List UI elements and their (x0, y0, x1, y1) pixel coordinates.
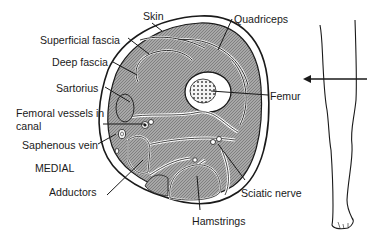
label-deep-fascia: Deep fascia (52, 56, 108, 69)
label-skin: Skin (143, 10, 164, 23)
label-saphenous-vein: Saphenous vein (22, 139, 98, 152)
label-sartorius: Sartorius (56, 82, 98, 95)
label-adductors: Adductors (49, 186, 97, 199)
label-femur: Femur (270, 90, 301, 103)
label-sciatic-nerve: Sciatic nerve (241, 187, 302, 200)
label-hamstrings: Hamstrings (192, 215, 246, 228)
label-medial: MEDIAL (35, 162, 74, 175)
label-superficial-fascia: Superficial fascia (40, 34, 120, 47)
adductor-muscles (128, 136, 150, 173)
label-femoral-vessels-2: canal (16, 120, 41, 133)
sartorius-muscle (116, 94, 134, 122)
label-quadriceps: Quadriceps (234, 13, 288, 26)
leg-silhouette (320, 20, 356, 229)
section-level-arrow (303, 75, 367, 83)
label-femoral-vessels-1: Femoral vessels in (16, 107, 104, 120)
